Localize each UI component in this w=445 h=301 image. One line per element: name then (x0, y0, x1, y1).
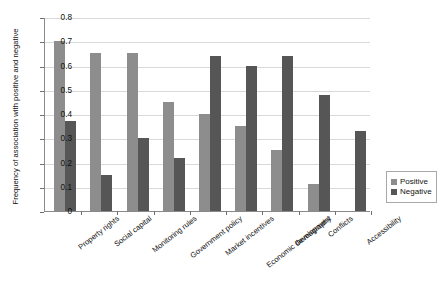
bars-layer (45, 18, 370, 211)
y-tick-mark (40, 42, 44, 43)
y-tick-mark (40, 91, 44, 92)
bar-positive[interactable] (308, 184, 319, 211)
bar-negative[interactable] (210, 56, 221, 211)
bar-group (127, 18, 149, 211)
bar-group (199, 18, 221, 211)
bar-negative[interactable] (174, 158, 185, 211)
legend-swatch-positive (391, 179, 397, 185)
y-tick-mark (40, 164, 44, 165)
bar-group (308, 18, 330, 211)
chart-legend: Positive Negative (386, 171, 437, 203)
x-axis-labels: Property rightsSocial capitalMonitoring … (44, 214, 370, 299)
y-tick-mark (40, 115, 44, 116)
bar-positive[interactable] (235, 126, 246, 211)
y-tick-mark (40, 188, 44, 189)
y-tick-label: 0.4 (50, 110, 72, 119)
plot-area (44, 18, 370, 212)
x-axis-label: Accessibility (365, 214, 403, 247)
y-tick-label: 0.3 (50, 134, 72, 143)
bar-negative[interactable] (319, 95, 330, 211)
y-tick-label: 0.5 (50, 86, 72, 95)
y-tick-mark (40, 139, 44, 140)
y-tick-mark (40, 212, 44, 213)
legend-item-positive[interactable]: Positive (391, 178, 433, 186)
y-tick-mark (40, 18, 44, 19)
bar-positive[interactable] (127, 53, 138, 211)
bar-negative[interactable] (101, 175, 112, 211)
legend-label-negative: Negative (400, 188, 432, 196)
bar-negative[interactable] (282, 56, 293, 211)
bar-positive[interactable] (199, 114, 210, 211)
bar-negative[interactable] (246, 66, 257, 212)
bar-group (344, 18, 366, 211)
y-tick-label: 0.2 (50, 159, 72, 168)
legend-item-negative[interactable]: Negative (391, 188, 433, 196)
bar-negative[interactable] (138, 138, 149, 211)
x-axis-label: Property rights (77, 214, 121, 252)
bar-group (235, 18, 257, 211)
x-tick-mark (371, 211, 372, 215)
y-axis-title: Frequency of association with positive a… (11, 14, 20, 220)
bar-positive[interactable] (271, 150, 282, 211)
bar-chart: Frequency of association with positive a… (0, 0, 445, 301)
y-tick-label: 0.6 (50, 62, 72, 71)
bar-group (90, 18, 112, 211)
y-tick-label: 0.1 (50, 183, 72, 192)
bar-positive[interactable] (163, 102, 174, 211)
legend-label-positive: Positive (400, 178, 428, 186)
y-tick-label: 0.7 (50, 37, 72, 46)
y-tick-mark (40, 67, 44, 68)
bar-group (163, 18, 185, 211)
bar-group (271, 18, 293, 211)
x-axis-label: Monitoring rules (150, 214, 198, 254)
bar-positive[interactable] (90, 53, 101, 211)
y-tick-label: 0.8 (50, 13, 72, 22)
legend-swatch-negative (391, 189, 397, 195)
bar-negative[interactable] (355, 131, 366, 211)
